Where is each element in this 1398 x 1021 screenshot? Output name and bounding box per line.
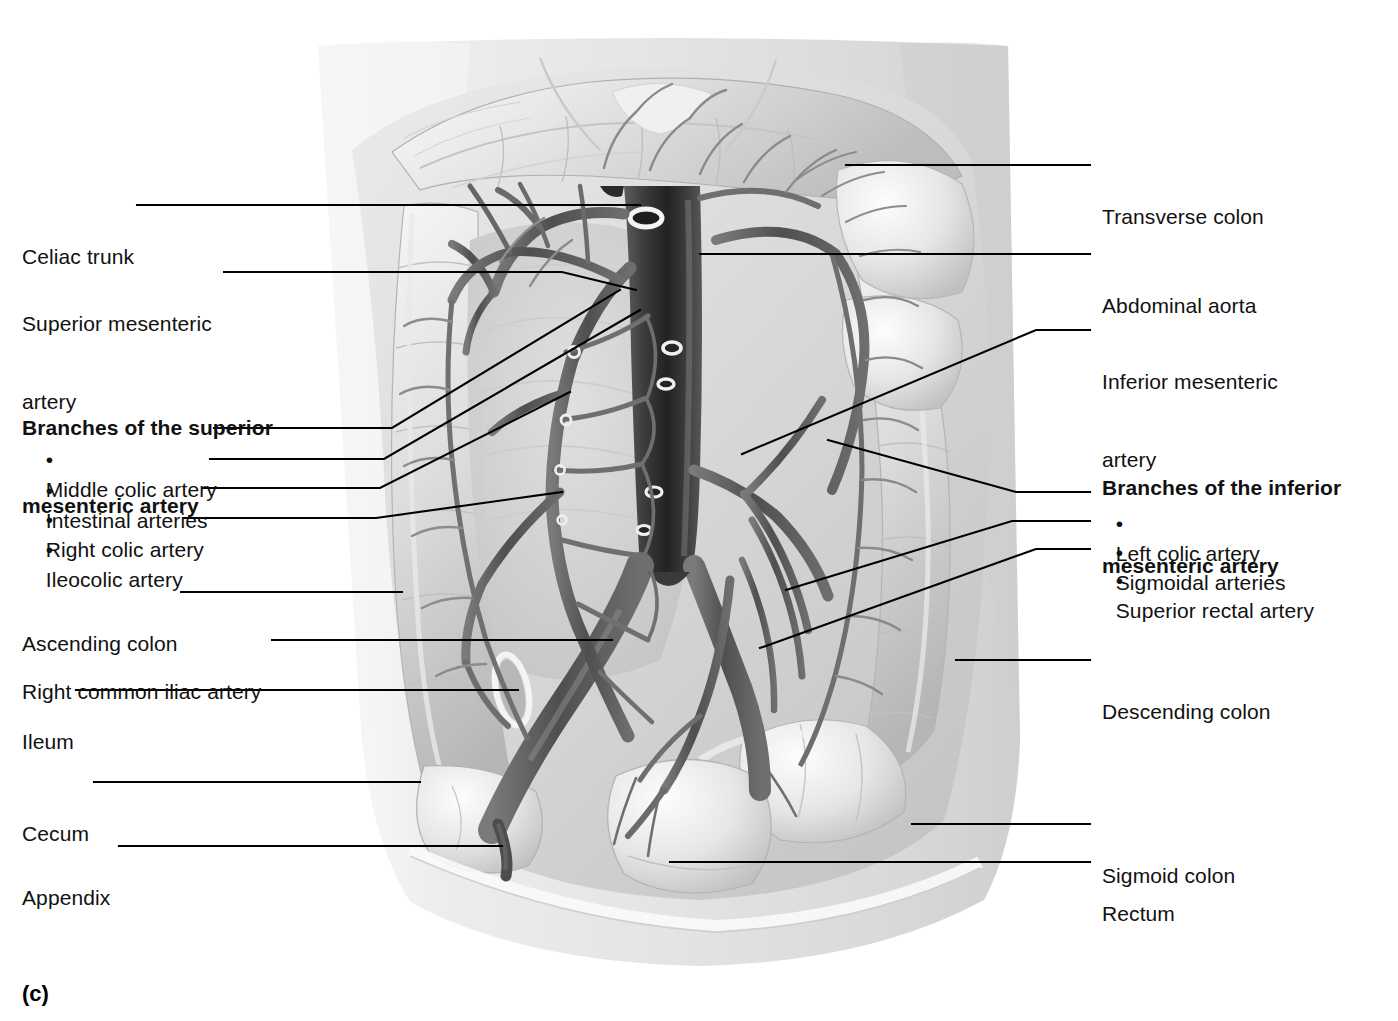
list-item-superior-rectal-artery: • Superior rectal artery [1092,536,1314,656]
label-appendix: Appendix [22,833,110,963]
label-descending-colon: Descending colon [1102,647,1271,777]
label-rectum: Rectum [1102,849,1175,979]
anatomy-figure: Celiac trunk Superior mesenteric artery … [0,0,1398,1021]
label-transverse-colon-line1: Transverse colon [1102,204,1264,230]
bullet-icon: • [46,538,53,561]
list-item-label: Superior rectal artery [1116,599,1314,622]
label-superior-mesenteric-artery-line1: Superior mesenteric [22,311,212,337]
label-abdominal-aorta-line1: Abdominal aorta [1102,293,1256,319]
rectum [608,759,772,892]
label-inferior-mesenteric-artery-line1: Inferior mesenteric [1102,369,1278,395]
label-rectum-line1: Rectum [1102,901,1175,927]
bullet-icon: • [1116,569,1123,592]
label-appendix-line1: Appendix [22,885,110,911]
label-ileum-line1: Ileum [22,729,74,755]
figure-caption: (c) [22,981,49,1007]
label-descending-colon-line1: Descending colon [1102,699,1271,725]
